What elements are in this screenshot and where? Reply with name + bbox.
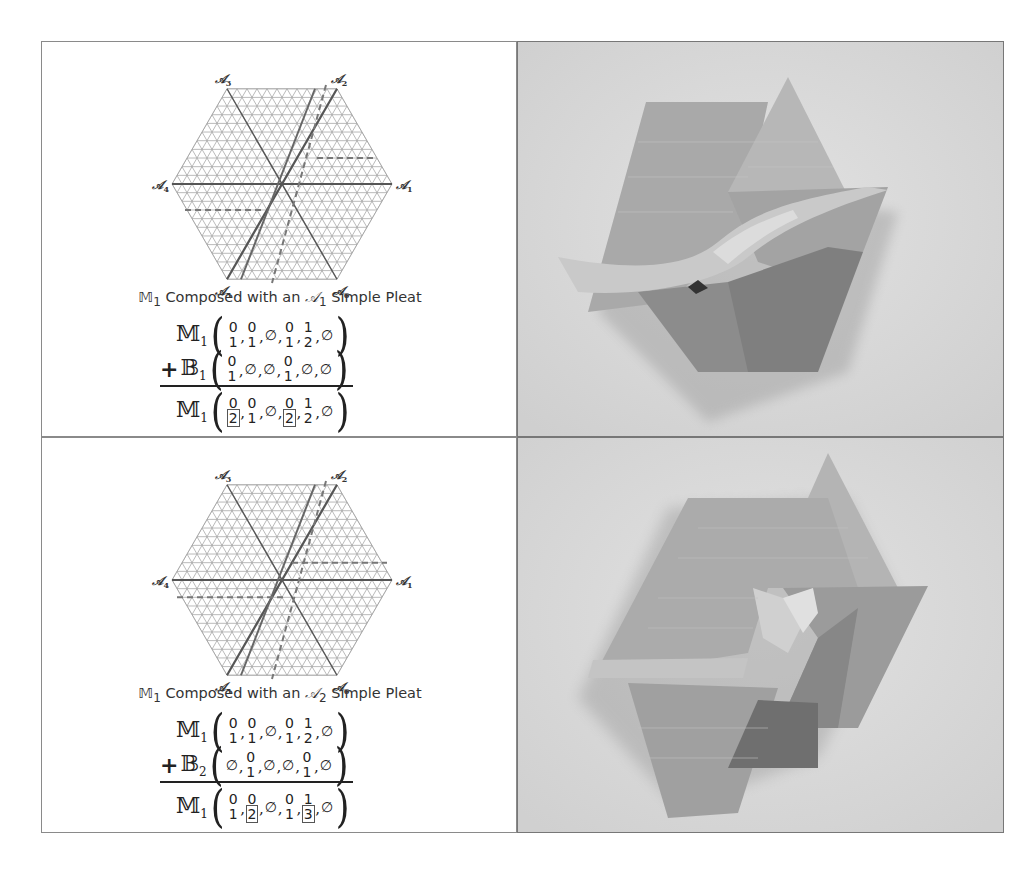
highlighted-value: 2	[227, 409, 240, 427]
tuple: 01,01,∅,01,12,∅	[227, 716, 333, 746]
caption-axis: 𝒜	[305, 685, 319, 701]
operator-symbol: 𝕄1	[176, 321, 208, 349]
axis-label-a3: 𝒜3	[214, 72, 232, 88]
tuple-entry: ∅	[265, 800, 277, 814]
tuple-entry: 01	[227, 320, 239, 350]
operator-symbol: 𝕄1	[176, 397, 208, 425]
tuple-entry: 01	[246, 320, 258, 350]
right-paren: )	[336, 785, 350, 829]
tuple: 01,∅,∅,01,∅,∅	[226, 354, 332, 384]
caption-symbol-sub: 1	[153, 691, 161, 705]
panel-1-caption: 𝕄1 Composed with an 𝒜1 Simple Pleat	[42, 289, 518, 309]
tuple-entry: ∅	[321, 404, 333, 418]
caption-text: Composed with an	[161, 685, 305, 701]
sum-rule-line	[160, 385, 353, 387]
operator-symbol: 𝔹2	[180, 751, 206, 779]
hex-grid-diagram-2: 𝒜1𝒜2𝒜3𝒜4𝒜5𝒜6	[137, 438, 427, 703]
caption-text-end: Simple Pleat	[327, 289, 422, 305]
tuple-entry: ∅	[301, 362, 313, 376]
plus-operator: +	[160, 356, 178, 382]
tuple-entry: ∅	[265, 724, 277, 738]
panel-1-diagram-cell: 𝒜1𝒜2𝒜3𝒜4𝒜5𝒜6 𝕄1 Composed with an 𝒜1 Simp…	[41, 41, 517, 437]
left-paren: (	[211, 785, 225, 829]
tuple-entry: ∅	[321, 800, 333, 814]
tuple-entry: ∅	[320, 758, 332, 772]
tuple-entry: ∅	[320, 362, 332, 376]
caption-symbol-sub: 1	[153, 295, 161, 309]
tuple-entry: 13	[302, 792, 314, 822]
tuple-entry: ∅	[282, 758, 294, 772]
panel-2-photo	[517, 437, 1004, 833]
axis-label-a3: 𝒜3	[214, 468, 232, 484]
tuple: 02,01,∅,02,12,∅	[227, 396, 333, 426]
tuple-entry: 01	[284, 792, 296, 822]
tuple-entry: ∅	[245, 362, 257, 376]
axis-label-a1: 𝒜1	[395, 574, 413, 590]
hex-grid-diagram-1: 𝒜1𝒜2𝒜3𝒜4𝒜5𝒜6	[137, 42, 427, 307]
figure: 𝒜1𝒜2𝒜3𝒜4𝒜5𝒜6 𝕄1 Composed with an 𝒜1 Simp…	[41, 41, 1004, 833]
right-paren: )	[336, 389, 350, 433]
tuple: 01,02,∅,01,13,∅	[227, 792, 333, 822]
caption-axis-sub: 2	[319, 691, 327, 705]
origami-photo-1	[518, 42, 1004, 437]
operator-symbol: 𝕄1	[176, 793, 208, 821]
tuple-entry: ∅	[321, 328, 333, 342]
tuple-entry: ∅	[265, 328, 277, 342]
sum-rule-line	[160, 781, 353, 783]
tuple-entry: 12	[302, 396, 314, 426]
tuple-entry: 01	[284, 320, 296, 350]
origami-photo-2	[518, 438, 1004, 833]
equation-result: 𝕄1(01,02,∅,01,13,∅)	[176, 785, 352, 829]
caption-symbol: 𝕄	[138, 685, 153, 701]
tuple-entry: 01	[227, 792, 239, 822]
caption-text: Composed with an	[161, 289, 305, 305]
equation-result: 𝕄1(02,01,∅,02,12,∅)	[176, 389, 352, 433]
caption-symbol: 𝕄	[138, 289, 153, 305]
tuple-entry: ∅	[226, 758, 238, 772]
tuple-entry: 01	[246, 396, 258, 426]
highlighted-value: 2	[246, 805, 259, 823]
tuple-entry: 02	[227, 396, 239, 426]
axis-label-a4: 𝒜4	[151, 574, 169, 590]
tuple-entry: 12	[302, 716, 314, 746]
tuple-entry: 01	[245, 750, 257, 780]
axis-label-a2: 𝒜2	[330, 468, 348, 484]
operator-symbol: 𝔹1	[180, 355, 206, 383]
tuple-entry: 01	[282, 354, 294, 384]
highlighted-value: 3	[302, 805, 315, 823]
axis-label-a4: 𝒜4	[151, 178, 169, 194]
tuple-entry: ∅	[265, 404, 277, 418]
highlighted-value: 2	[283, 409, 296, 427]
tuple-entry: 01	[284, 716, 296, 746]
left-paren: (	[211, 389, 225, 433]
tuple-entry: 01	[301, 750, 313, 780]
tuple-entry: 01	[246, 716, 258, 746]
plus-operator: +	[160, 752, 178, 778]
tuple-entry: ∅	[263, 758, 275, 772]
caption-axis: 𝒜	[305, 289, 319, 305]
tuple-entry: 12	[302, 320, 314, 350]
caption-text-end: Simple Pleat	[327, 685, 422, 701]
caption-axis-sub: 1	[319, 295, 327, 309]
tuple: 01,01,∅,01,12,∅	[227, 320, 333, 350]
axis-label-a1: 𝒜1	[395, 178, 413, 194]
panel-1-photo	[517, 41, 1004, 437]
tuple-entry: 01	[227, 716, 239, 746]
panel-2-diagram-cell: 𝒜1𝒜2𝒜3𝒜4𝒜5𝒜6 𝕄1 Composed with an 𝒜2 Simp…	[41, 437, 517, 833]
axis-label-a2: 𝒜2	[330, 72, 348, 88]
tuple-entry: 01	[226, 354, 238, 384]
tuple: ∅,01,∅,∅,01,∅	[226, 750, 332, 780]
panel-2-caption: 𝕄1 Composed with an 𝒜2 Simple Pleat	[42, 685, 518, 705]
operator-symbol: 𝕄1	[176, 717, 208, 745]
tuple-entry: ∅	[321, 724, 333, 738]
tuple-entry: 02	[246, 792, 258, 822]
tuple-entry: ∅	[263, 362, 275, 376]
tuple-entry: 02	[284, 396, 296, 426]
